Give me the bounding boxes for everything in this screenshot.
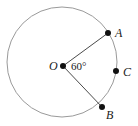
diagram-canvas [0, 0, 138, 126]
point-B [99, 104, 105, 110]
label-O: O [49, 60, 58, 72]
circle-outline [7, 7, 117, 117]
point-C [113, 68, 119, 74]
radius-OB [63, 66, 102, 107]
point-A [105, 30, 111, 36]
point-O [60, 63, 66, 69]
label-C: C [123, 66, 131, 78]
label-A: A [115, 27, 122, 39]
circle-sector-diagram: O 60° A C B [0, 0, 138, 126]
angle-label: 60° [71, 61, 86, 72]
label-B: B [106, 109, 113, 121]
